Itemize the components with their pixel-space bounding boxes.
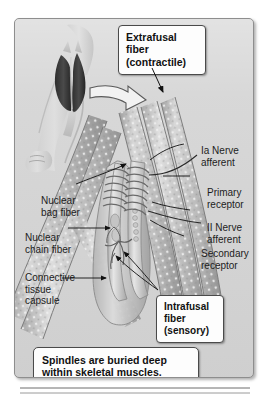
callout-extrafusal-line2: fiber [126,43,199,55]
caption-line2: within skeletal muscles. [42,366,191,378]
label-ii-nerve-line1: II Nerve [207,222,242,234]
label-connective-line2: tissue [25,284,75,296]
label-connective-line1: Connective [25,272,75,284]
label-secondary-receptor: Secondary receptor [201,248,249,271]
figure-panel: Extrafusal fiber (contractile) Intrafusa… [14,18,254,378]
label-connective-tissue-capsule: Connective tissue capsule [25,272,75,307]
label-nuclear-bag-line1: Nuclear [41,195,80,207]
label-ia-nerve-line1: Ia Nerve [201,145,239,157]
callout-intrafusal-line2: fiber [164,313,217,325]
label-primary-receptor: Primary receptor [207,187,244,210]
label-nuclear-bag-line2: bag fiber [41,207,80,219]
label-nuclear-bag-fiber: Nuclear bag fiber [41,195,80,218]
label-connective-line3: capsule [25,295,75,307]
caption-line1: Spindles are buried deep [42,354,191,366]
label-ii-nerve-afferent: II Nerve afferent [207,222,242,245]
label-primary-line2: receptor [207,199,244,211]
caption-box: Spindles are buried deep within skeletal… [33,347,199,378]
figure-root: Extrafusal fiber (contractile) Intrafusa… [0,0,268,398]
callout-intrafusal-fiber: Intrafusal fiber (sensory) [156,295,224,343]
label-secondary-line2: receptor [201,260,249,272]
label-ia-nerve-line2: afferent [201,157,239,169]
label-secondary-line1: Secondary [201,248,249,260]
label-ia-nerve-afferent: Ia Nerve afferent [201,145,239,168]
label-ii-nerve-line2: afferent [207,234,242,246]
callout-extrafusal-line3: (contractile) [126,56,199,68]
label-nuclear-chain-line2: chain fiber [25,244,71,256]
callout-extrafusal-line1: Extrafusal [126,31,199,43]
label-primary-line1: Primary [207,187,244,199]
label-nuclear-chain-fiber: Nuclear chain fiber [25,232,71,255]
callout-intrafusal-line1: Intrafusal [164,301,217,313]
callout-extrafusal-fiber: Extrafusal fiber (contractile) [118,25,206,75]
callout-intrafusal-line3: (sensory) [164,325,217,337]
label-nuclear-chain-line1: Nuclear [25,232,71,244]
